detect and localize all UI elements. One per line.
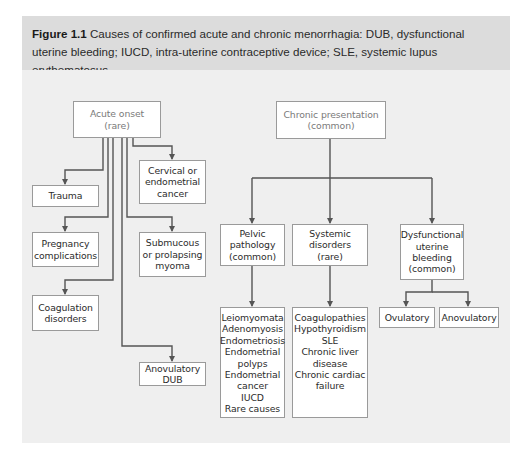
systemic-causes-list: Coagulopathies Hypothyroidism SLE Chroni… [292,307,368,418]
pregnancy-complications-box: Pregnancy complications [32,232,99,267]
trauma-box: Trauma [32,185,99,207]
anovulatory-box: Anovulatory [439,307,499,328]
ovulatory-box: Ovulatory [379,307,435,328]
chronic-presentation-box: Chronic presentation (common) [276,101,386,139]
coagulation-disorders-box: Coagulation disorders [32,295,99,331]
dysfunctional-uterine-bleeding-box: Dysfunctional uterine bleeding (common) [400,224,464,280]
pelvic-pathology-box: Pelvic pathology (common) [220,224,285,266]
submucous-myoma-box: Submucous or prolapsing myoma [139,232,206,277]
pelvic-causes-list: Leiomyomata Adenomyosis Endometriosis En… [220,307,285,418]
cervical-endometrial-cancer-box: Cervical or endometrial cancer [139,160,206,204]
acute-onset-box: Acute onset (rare) [73,101,161,138]
anovulatory-dub-box: Anovulatory DUB [139,362,206,386]
systemic-disorders-box: Systemic disorders (rare) [292,224,368,266]
